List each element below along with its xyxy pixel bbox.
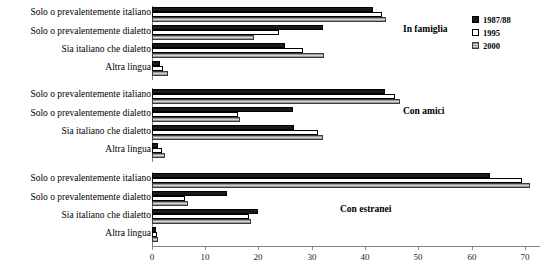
category-label: Solo o prevalentemente italiano: [0, 173, 151, 183]
grouped-bar-chart: 1987/88 1995 2000 In famiglia Solo o pre…: [0, 0, 545, 277]
category-label: Solo o prevalentemente dialetto: [0, 108, 151, 118]
bar-2000: [152, 183, 530, 188]
x-axis-tick: [312, 247, 313, 250]
x-axis-tick-label: 20: [246, 252, 270, 262]
category-label: Sia italiano che dialetto: [0, 44, 151, 54]
x-axis-tick: [205, 247, 206, 250]
x-axis-tick: [365, 247, 366, 250]
x-axis-tick-label: 10: [193, 252, 217, 262]
x-axis-tick: [525, 247, 526, 250]
x-axis-tick-label: 60: [460, 252, 484, 262]
bar-2000: [152, 53, 324, 58]
x-axis-line: [152, 246, 540, 247]
chart-legend: 1987/88 1995 2000: [472, 13, 542, 52]
legend-item-1995: 1995: [472, 26, 542, 39]
bar-2000: [152, 17, 386, 22]
panel-title-con-estranei: Con estranei: [340, 204, 391, 214]
bar-2000: [152, 153, 165, 158]
panel-title-in-famiglia: In famiglia: [403, 24, 448, 34]
category-label: Solo o prevalentemente dialetto: [0, 26, 151, 36]
x-axis-tick-label: 30: [300, 252, 324, 262]
bar-2000: [152, 71, 168, 76]
category-label: Solo o prevalentemente italiano: [0, 89, 151, 99]
x-axis-tick: [258, 247, 259, 250]
category-label: Altra lingua: [0, 144, 151, 154]
category-label: Sia italiano che dialetto: [0, 126, 151, 136]
bar-2000: [152, 35, 254, 40]
legend-item-1987-88: 1987/88: [472, 13, 542, 26]
x-axis-tick: [418, 247, 419, 250]
legend-item-2000: 2000: [472, 39, 542, 52]
bar-2000: [152, 219, 251, 224]
bar-2000: [152, 99, 400, 104]
legend-label: 1995: [483, 28, 500, 38]
bar-2000: [152, 201, 188, 206]
x-axis-tick-label: 50: [406, 252, 430, 262]
bar-2000: [152, 135, 323, 140]
black-solid-swatch-icon: [472, 16, 479, 23]
category-label: Solo o prevalentemente dialetto: [0, 192, 151, 202]
panel-title-con-amici: Con amici: [403, 106, 444, 116]
bar-2000: [152, 117, 240, 122]
category-label: Solo o prevalentemente italiano: [0, 7, 151, 17]
x-axis-tick: [472, 247, 473, 250]
bar-2000: [152, 237, 158, 242]
gray-hatched-swatch-icon: [472, 42, 479, 49]
category-label: Altra lingua: [0, 62, 151, 72]
plot-area: 1987/88 1995 2000 In famiglia Solo o pre…: [0, 0, 545, 277]
x-axis-tick-label: 0: [140, 252, 164, 262]
white-open-swatch-icon: [472, 29, 479, 36]
x-axis-tick-label: 40: [353, 252, 377, 262]
legend-label: 2000: [483, 41, 500, 51]
legend-label: 1987/88: [483, 15, 511, 25]
category-label: Sia italiano che dialetto: [0, 210, 151, 220]
x-axis-tick-label: 70: [513, 252, 537, 262]
x-axis-tick: [152, 247, 153, 250]
category-label: Altra lingua: [0, 228, 151, 238]
